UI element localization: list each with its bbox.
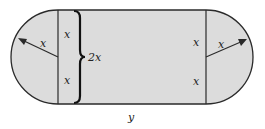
stadium-diagram: x x x x 2x x x y bbox=[0, 0, 265, 129]
left-lower-half-label: x bbox=[64, 74, 71, 87]
stadium-shape bbox=[11, 10, 253, 104]
left-radius-label: x bbox=[40, 37, 47, 50]
right-upper-half-label: x bbox=[193, 36, 200, 49]
right-radius-label: x bbox=[218, 38, 225, 51]
brace-total-label: 2x bbox=[87, 51, 102, 64]
rectangle-length-label: y bbox=[127, 111, 135, 124]
right-lower-half-label: x bbox=[193, 75, 200, 88]
left-upper-half-label: x bbox=[64, 28, 71, 41]
